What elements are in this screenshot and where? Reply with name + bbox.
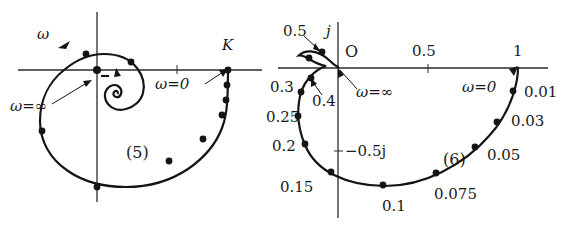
panel6-point-label-0.075: 0.075	[434, 185, 477, 203]
panel6-point-label-0.05: 0.05	[487, 146, 520, 164]
panel6-point-label-0.25: 0.25	[266, 108, 299, 126]
panel6-tick-half-label: 0.5	[412, 42, 436, 60]
panel6-tick-one-label: 1	[513, 42, 523, 60]
panel5-omega-label: ω	[37, 25, 49, 43]
panel6-point-label-0.1: 0.1	[382, 197, 406, 215]
panel6-point-label-0.01: 0.01	[524, 83, 557, 101]
panel6-point-label-0.5: 0.5	[283, 22, 307, 40]
panel5-caption: (5)	[126, 143, 149, 162]
panel6-omega-inf-label: ω=∞	[356, 83, 393, 101]
panel6-point-label-0.15: 0.15	[280, 178, 313, 196]
panel6-point-label-0.4: 0.4	[312, 92, 336, 110]
panel6-origin-label: O	[345, 42, 358, 61]
panel5-gain-label: K	[222, 36, 233, 54]
panel6-point-label-0.3: 0.3	[270, 78, 294, 96]
panel6-caption: (6)	[443, 150, 466, 169]
panel6-point-label-0.2: 0.2	[272, 137, 296, 155]
panel6-omega-zero-label: ω=0	[462, 78, 496, 96]
panel6-imag-unit-label: j	[326, 22, 331, 40]
panel5-omega-zero-label: ω=0	[155, 75, 189, 93]
panel6-minus-half-j-label: −0.5j	[345, 142, 386, 160]
panel5-omega-inf-label: ω=∞	[10, 97, 47, 115]
panel6-point-label-0.03: 0.03	[511, 112, 544, 130]
